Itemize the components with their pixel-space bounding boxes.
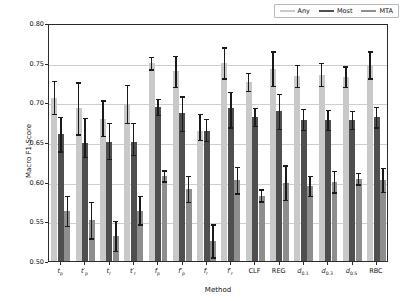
error-cap-upper bbox=[374, 107, 379, 108]
error-bar bbox=[327, 110, 328, 130]
x-tick-label-f_r: fr bbox=[204, 267, 208, 276]
error-cap-upper bbox=[156, 99, 161, 100]
error-cap-upper bbox=[283, 165, 288, 166]
error-cap-upper bbox=[162, 170, 167, 171]
error-bar bbox=[224, 47, 225, 78]
error-cap-lower bbox=[381, 192, 386, 193]
error-cap-lower bbox=[149, 69, 154, 70]
error-cap-upper bbox=[332, 171, 337, 172]
y-tick-label: 0.60 bbox=[0, 179, 44, 187]
bar-REG-Most bbox=[276, 111, 282, 262]
error-cap-lower bbox=[58, 151, 63, 152]
error-cap-lower bbox=[235, 193, 240, 194]
legend-item-most[interactable]: Most bbox=[319, 7, 353, 15]
error-bar bbox=[133, 123, 134, 156]
error-cap-upper bbox=[277, 94, 282, 95]
error-cap-lower bbox=[83, 157, 88, 158]
y-tick-mark bbox=[45, 103, 48, 104]
y-tick-mark bbox=[45, 183, 48, 184]
bar-t_p-Most bbox=[58, 134, 64, 262]
error-cap-upper bbox=[271, 51, 276, 52]
error-cap-upper bbox=[356, 173, 361, 174]
error-cap-upper bbox=[107, 123, 112, 124]
error-cap-upper bbox=[65, 196, 70, 197]
y-tick-mark bbox=[45, 262, 48, 263]
legend: AnyMostMTA bbox=[274, 4, 399, 18]
error-bar bbox=[84, 118, 85, 157]
x-tick-label-f_p: fp bbox=[155, 267, 160, 276]
error-cap-lower bbox=[204, 141, 209, 142]
x-tick-mark bbox=[157, 262, 158, 265]
error-bar bbox=[272, 51, 273, 86]
error-bar bbox=[54, 81, 55, 114]
error-cap-lower bbox=[186, 202, 191, 203]
error-cap-upper bbox=[204, 119, 209, 120]
error-cap-upper bbox=[368, 51, 373, 52]
error-cap-upper bbox=[235, 167, 240, 168]
error-cap-upper bbox=[173, 56, 178, 57]
legend-item-any[interactable]: Any bbox=[280, 7, 310, 15]
error-cap-upper bbox=[246, 73, 251, 74]
error-bar bbox=[309, 176, 310, 196]
error-bar bbox=[78, 82, 79, 134]
error-cap-upper bbox=[58, 117, 63, 118]
x-tick-label-t_p*: t′p bbox=[81, 267, 88, 276]
bar-RBC-Any bbox=[367, 65, 373, 262]
x-tick-label-d_0.1: d0.1 bbox=[297, 267, 308, 276]
error-cap-upper bbox=[259, 189, 264, 190]
bar-d_0.5-Any bbox=[343, 77, 349, 262]
legend-label: Most bbox=[337, 7, 353, 15]
error-cap-upper bbox=[228, 92, 233, 93]
bar-d_0.5-Most bbox=[349, 120, 355, 262]
legend-swatch-most bbox=[319, 10, 334, 13]
error-bar bbox=[376, 107, 377, 128]
error-cap-upper bbox=[319, 63, 324, 64]
x-tick-mark bbox=[327, 262, 328, 265]
error-cap-upper bbox=[198, 114, 203, 115]
error-bar bbox=[164, 170, 165, 181]
error-cap-lower bbox=[295, 87, 300, 88]
error-cap-lower bbox=[222, 78, 227, 79]
y-axis-label: Macro F1-Score bbox=[25, 123, 33, 177]
bar-f_p-Any bbox=[149, 63, 155, 262]
error-cap-lower bbox=[156, 115, 161, 116]
error-bar bbox=[109, 123, 110, 159]
error-cap-lower bbox=[180, 131, 185, 132]
error-cap-lower bbox=[246, 91, 251, 92]
x-tick-label-f_p*: f′p bbox=[178, 267, 185, 276]
bar-f_p-Most bbox=[155, 107, 161, 262]
error-bar bbox=[212, 224, 213, 257]
error-bar bbox=[157, 99, 158, 115]
error-cap-lower bbox=[107, 159, 112, 160]
error-cap-upper bbox=[52, 81, 57, 82]
error-cap-upper bbox=[101, 100, 106, 101]
bar-f_p*-Any bbox=[173, 71, 179, 262]
error-cap-lower bbox=[228, 127, 233, 128]
error-cap-lower bbox=[173, 87, 178, 88]
error-cap-lower bbox=[343, 87, 348, 88]
error-bar bbox=[352, 111, 353, 129]
error-cap-upper bbox=[308, 176, 313, 177]
error-bar bbox=[60, 117, 61, 151]
y-tick-label: 0.70 bbox=[0, 99, 44, 107]
y-tick-label: 0.55 bbox=[0, 218, 44, 226]
x-tick-label-t_p: tp bbox=[57, 267, 62, 276]
bar-t_r*-Any bbox=[124, 104, 130, 262]
error-bar bbox=[102, 100, 103, 136]
error-cap-lower bbox=[301, 130, 306, 131]
error-bar bbox=[358, 173, 359, 185]
error-bar bbox=[279, 94, 280, 129]
bar-d_0.3-Any bbox=[319, 75, 325, 262]
error-cap-upper bbox=[350, 111, 355, 112]
x-tick-label-d_0.5: d0.5 bbox=[346, 267, 357, 276]
bar-RBC-Most bbox=[374, 117, 380, 262]
x-tick-label-f_r*: f′r bbox=[227, 267, 233, 276]
error-bar bbox=[67, 196, 68, 226]
bar-f_r*-Most bbox=[228, 108, 234, 262]
error-cap-upper bbox=[186, 176, 191, 177]
error-cap-upper bbox=[149, 57, 154, 58]
x-tick-mark bbox=[303, 262, 304, 265]
error-bar bbox=[151, 57, 152, 70]
x-tick-mark bbox=[84, 262, 85, 265]
legend-item-mta[interactable]: MTA bbox=[361, 7, 393, 15]
